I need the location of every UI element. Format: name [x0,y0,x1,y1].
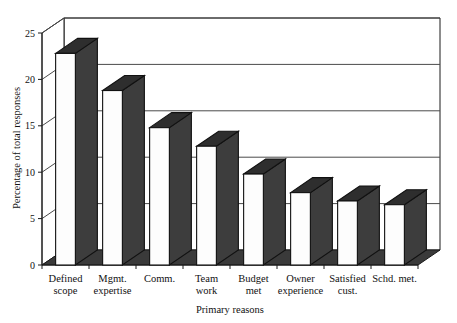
bar-side-face [263,159,285,265]
y-tick-label: 25 [25,28,35,39]
bar-front-face [150,128,170,265]
chart-floor [42,250,440,265]
bar-chart-figure: 0510152025 DefinedscopeMgmt.expertiseCom… [0,0,457,323]
category-label: work [196,285,218,296]
category-label: Mgmt. [98,273,126,284]
category-label: cust. [338,285,358,296]
category-label: scope [54,285,78,296]
category-label: Owner [286,273,315,284]
bar-column [244,159,286,265]
bar-front-face [338,201,358,265]
category-label: expertise [94,285,132,296]
bar-front-face [56,53,76,265]
category-label: experience [278,285,324,296]
bar-column [103,76,145,265]
bar-front-face [244,174,264,265]
y-axis-title: Percentage of total responses [11,87,22,209]
bar-front-face [291,193,311,265]
bar-column [385,190,427,265]
y-tick-label: 20 [25,74,35,85]
bar-column [291,178,333,265]
category-label: met [246,285,262,296]
bar-column [197,131,239,265]
category-label: Team [195,273,218,284]
category-label: Satisfied [329,273,366,284]
bar-side-face [75,38,97,265]
bar-front-face [385,205,405,265]
y-axis-ticks: 0510152025 [25,28,42,271]
x-axis-category-labels: DefinedscopeMgmt.expertiseComm.TeamworkB… [49,273,417,296]
category-label: Comm. [144,273,175,284]
y-tick-label: 5 [30,213,35,224]
y-tick-label: 15 [25,120,35,131]
bar-side-face [169,113,191,265]
x-axis-ticks [42,265,418,269]
bar-side-face [216,131,238,265]
y-tick-label: 10 [25,167,35,178]
bar-column [338,186,380,265]
chart-canvas: 0510152025 DefinedscopeMgmt.expertiseCom… [0,0,457,323]
category-label: Defined [49,273,84,284]
bar-front-face [197,146,217,265]
bar-front-face [103,91,123,265]
bar-column [150,113,192,265]
bar-column [56,38,98,265]
category-label: Schd. met. [372,273,417,284]
x-axis-title: Primary reasons [196,304,264,315]
bar-side-face [122,76,144,265]
y-tick-label: 0 [30,260,35,271]
category-label: Budget [238,273,268,284]
